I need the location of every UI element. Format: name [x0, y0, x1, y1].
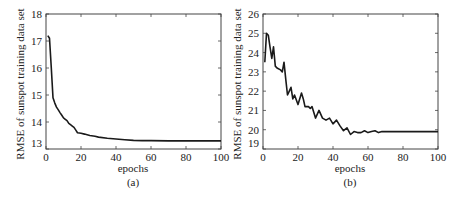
x-tick-label: 20	[293, 151, 305, 163]
y-tick-label: 17	[31, 35, 43, 47]
x-tick-label: 100	[430, 151, 447, 163]
y-tick-label: 15	[31, 89, 43, 101]
y-tick-label: 22	[248, 85, 259, 97]
x-tick-label: 100	[213, 151, 230, 163]
y-tick-label: 19	[248, 137, 260, 149]
rmse-line-b	[265, 33, 438, 134]
y-tick-label: 26	[248, 8, 260, 20]
y-tick-label: 21	[248, 104, 259, 116]
y-tick-label: 14	[31, 116, 43, 128]
y-ticks-a: 131415161718	[31, 8, 221, 149]
y-axis-label-b: RMSE of sunspot training data set	[231, 8, 243, 159]
y-tick-label: 24	[248, 47, 260, 59]
x-tick-label: 20	[76, 151, 88, 163]
y-tick-label: 13	[31, 137, 43, 149]
y-ticks-b: 1920212223242526	[248, 8, 438, 149]
x-tick-label: 0	[260, 151, 266, 163]
panel-label-b: (b)	[344, 176, 357, 189]
y-tick-label: 18	[31, 8, 43, 20]
x-axis-label-b: epochs	[335, 162, 366, 174]
x-axis-label-a: epochs	[118, 162, 149, 174]
x-tick-label: 80	[398, 151, 410, 163]
y-tick-label: 23	[248, 66, 260, 78]
chart-panel-b: 1920212223242526 020406080100 epochs (b)…	[231, 8, 447, 189]
y-axis-label-a: RMSE of sunspot training data set	[14, 8, 26, 159]
y-tick-label: 20	[248, 124, 260, 136]
plot-area-a	[46, 14, 221, 149]
x-tick-label: 0	[43, 151, 49, 163]
figure: 131415161718 020406080100 epochs (a) RMS…	[0, 0, 462, 198]
chart-panel-a: 131415161718 020406080100 epochs (a) RMS…	[14, 8, 230, 189]
x-ticks-b: 020406080100	[260, 14, 447, 163]
y-tick-label: 16	[31, 62, 43, 74]
panel-label-a: (a)	[127, 176, 140, 189]
y-tick-label: 25	[248, 27, 260, 39]
plot-area-b	[263, 14, 438, 149]
x-tick-label: 80	[181, 151, 193, 163]
rmse-line-a	[48, 36, 221, 141]
